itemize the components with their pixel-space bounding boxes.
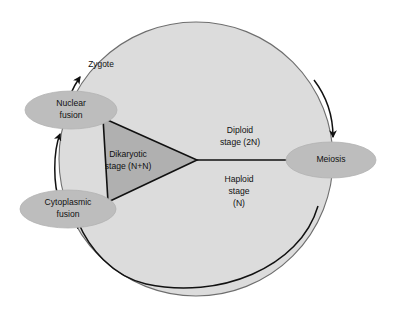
haploid-stage-label-line1: Haploid bbox=[224, 174, 253, 184]
nuclear-fusion-label-line2: fusion bbox=[60, 110, 83, 120]
haploid-stage-label-line2: stage bbox=[228, 186, 249, 196]
diploid-stage-label-line1: Diploid bbox=[227, 125, 253, 135]
diploid-stage-label-line2: stage (2N) bbox=[220, 137, 260, 147]
dikaryotic-stage-label-line2: stage (N+N) bbox=[105, 161, 152, 171]
meiosis-label: Meiosis bbox=[316, 154, 345, 164]
cytoplasmic-fusion-label-line1: Cytoplasmic bbox=[45, 197, 93, 207]
haploid-stage-label-line3: (N) bbox=[233, 198, 245, 208]
zygote-annotation-label: Zygote bbox=[88, 59, 114, 69]
life-cycle-canvas: Nuclear fusion Cytoplasmic fusion Meiosi… bbox=[0, 0, 393, 315]
nuclear-fusion-label-line1: Nuclear bbox=[56, 98, 86, 108]
cytoplasmic-fusion-label-line2: fusion bbox=[57, 209, 80, 219]
dikaryotic-stage-label-line1: Dikaryotic bbox=[109, 149, 147, 159]
fungal-life-cycle-diagram: Nuclear fusion Cytoplasmic fusion Meiosi… bbox=[0, 0, 393, 315]
